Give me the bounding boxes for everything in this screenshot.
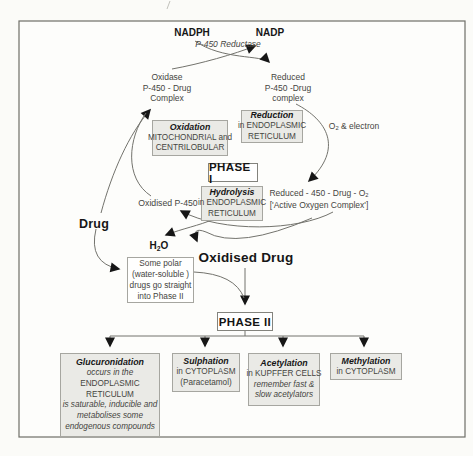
label-oxidised-p450: Oxidised P-450 bbox=[138, 198, 197, 209]
drug-metabolism-diagram-page: NADPH NADP P-450 Reductase Oxidase P-450… bbox=[0, 0, 473, 456]
label-nadp: NADP bbox=[256, 28, 284, 39]
active-complex-line2: ['Active Oxygen Complex'] bbox=[269, 200, 368, 211]
sulphation-box: Sulphation in CYTOPLASM (Paracetamol) bbox=[172, 353, 240, 392]
some-polar-line2: (water-soluble ) bbox=[132, 269, 189, 280]
label-nadph: NADPH bbox=[174, 28, 210, 39]
acetylation-box: Acetylation in KUPFFER CELLS remember fa… bbox=[248, 353, 320, 406]
reduction-line1: in ENDOPLASMIC bbox=[238, 121, 306, 132]
some-polar-line4: into Phase II bbox=[137, 291, 183, 302]
h2o-rest: O bbox=[161, 240, 169, 251]
glucuronidation-line1: occurs in the bbox=[87, 368, 133, 379]
glucuronidation-title: Glucuronidation bbox=[76, 357, 144, 368]
label-active-oxygen-complex: Reduced - 450 - Drug - O2 ['Active Oxyge… bbox=[269, 188, 368, 210]
methylation-line1: in CYTOPLASM bbox=[337, 367, 396, 378]
o2-base: O bbox=[329, 121, 336, 131]
label-oxidised-drug: Oxidised Drug bbox=[199, 253, 294, 264]
label-p450-reductase: P-450 Reductase bbox=[195, 39, 261, 50]
hydrolysis-box: Hydrolysis in ENDOPLASMIC RETICULUM bbox=[201, 186, 263, 221]
h2o-sub: 2 bbox=[157, 245, 161, 252]
label-oxidase-complex: Oxidase P-450 - Drug Complex bbox=[143, 72, 192, 104]
glucuronidation-line2: ENDOPLASMIC bbox=[80, 379, 140, 390]
active-complex-line1: Reduced - 450 - Drug - O2 bbox=[269, 188, 368, 200]
phase1-box: PHASE I bbox=[208, 163, 258, 182]
glucuronidation-box: Glucuronidation occurs in the ENDOPLASMI… bbox=[60, 353, 160, 437]
glucuronidation-line3: RETICULUM bbox=[86, 390, 134, 401]
acetylation-title: Acetylation bbox=[260, 358, 307, 369]
sulphation-line2: (Paracetamol) bbox=[180, 378, 231, 389]
hydrolysis-line1: in ENDOPLASMIC bbox=[198, 198, 266, 209]
reduced-complex-line2: P-450 -Drug bbox=[265, 83, 311, 94]
acetylation-line1: in KUPFFER CELLS bbox=[246, 369, 321, 380]
reduction-box: Reduction in ENDOPLASMIC RETICULUM bbox=[241, 110, 303, 143]
oxidation-line1: MITOCHONDRIAL and bbox=[148, 133, 232, 144]
label-o2-electron: O2 & electron bbox=[329, 121, 379, 133]
acetylation-line2: remember fast & bbox=[254, 380, 315, 391]
some-polar-box: Some polar (water-soluble ) drugs go str… bbox=[127, 257, 194, 303]
scan-mark bbox=[167, 1, 170, 9]
hydrolysis-line2: RETICULUM bbox=[208, 209, 256, 220]
hydrolysis-title: Hydrolysis bbox=[210, 187, 255, 198]
methylation-title: Methylation bbox=[342, 356, 391, 367]
label-reduced-complex: Reduced P-450 -Drug complex bbox=[265, 72, 311, 104]
label-h2o: H2O bbox=[150, 241, 169, 253]
label-drug: Drug bbox=[79, 219, 109, 230]
active-complex-sub: 2 bbox=[365, 192, 368, 198]
reduced-complex-line3: complex bbox=[265, 93, 311, 104]
glucuronidation-line6: endogenous compounds bbox=[65, 422, 155, 433]
sulphation-title: Sulphation bbox=[183, 356, 228, 367]
reduced-complex-line1: Reduced bbox=[265, 72, 311, 83]
oxidation-box: Oxidation MITOCHONDRIAL and CENTRILOBULA… bbox=[152, 120, 228, 156]
phase2-box: PHASE II bbox=[217, 312, 273, 331]
glucuronidation-line4: is saturable, inducible and bbox=[63, 400, 158, 411]
oxidation-line2: CENTRILOBULAR bbox=[156, 143, 225, 154]
oxidase-complex-line2: P-450 - Drug bbox=[143, 83, 192, 94]
o2-sub: 2 bbox=[335, 126, 338, 132]
o2-rest: & electron bbox=[339, 121, 380, 131]
some-polar-line1: Some polar bbox=[139, 258, 181, 269]
glucuronidation-line5: metabolises some bbox=[77, 411, 143, 422]
methylation-box: Methylation in CYTOPLASM bbox=[330, 353, 402, 380]
oxidase-complex-line1: Oxidase bbox=[143, 72, 192, 83]
oxidase-complex-line3: Complex bbox=[143, 93, 192, 104]
oxidation-title: Oxidation bbox=[170, 122, 211, 133]
reduction-title: Reduction bbox=[250, 110, 293, 121]
acetylation-line3: slow acetylators bbox=[255, 390, 313, 401]
some-polar-line3: drugs go straight bbox=[130, 280, 192, 291]
sulphation-line1: in CYTOPLASM bbox=[177, 367, 236, 378]
reduction-line2: RETICULUM bbox=[248, 132, 296, 143]
active-complex-base: Reduced - 450 - Drug - O bbox=[269, 188, 365, 198]
